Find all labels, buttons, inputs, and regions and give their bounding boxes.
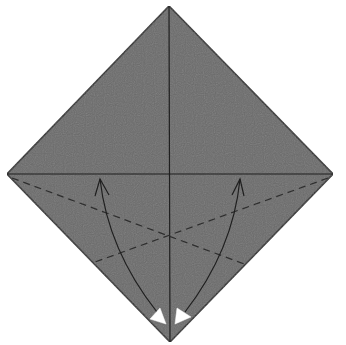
diagram-canvas (0, 0, 346, 345)
origami-diagram: Fold the lower edges to the center creas… (0, 0, 346, 345)
